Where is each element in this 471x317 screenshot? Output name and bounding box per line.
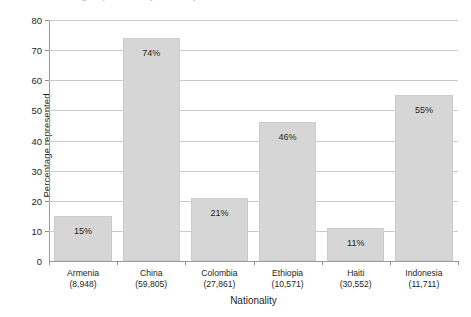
- category-name: Indonesia: [405, 268, 442, 278]
- category-name: Armenia: [67, 268, 99, 278]
- x-axis-tick-mark: [49, 261, 50, 265]
- bar: 74%: [123, 38, 180, 261]
- bar-value-label: 74%: [124, 48, 179, 58]
- x-axis-tick-mark: [117, 261, 118, 265]
- bar-value-label: 15%: [55, 226, 110, 236]
- bar-value-label: 11%: [328, 238, 383, 248]
- bar-value-label: 55%: [396, 105, 451, 115]
- y-axis-tick-label: 10: [12, 225, 42, 236]
- x-axis-tick-mark: [254, 261, 255, 265]
- bar: 15%: [54, 216, 111, 261]
- category-name: Colombia: [201, 268, 237, 278]
- bar: 11%: [327, 228, 384, 261]
- category-count: (59,805): [117, 279, 185, 290]
- bar: 55%: [395, 95, 452, 261]
- category-label: Indonesia(11,711): [390, 268, 458, 289]
- y-axis-tick-label: 30: [12, 165, 42, 176]
- category-count: (30,552): [322, 279, 390, 290]
- x-axis-tick-mark: [185, 261, 186, 265]
- category-count: (10,571): [254, 279, 322, 290]
- x-axis-tick-mark: [322, 261, 323, 265]
- category-label: Ethiopia(10,571): [254, 268, 322, 289]
- bar-chart-figure: Percentage represented 01020304050607080…: [0, 0, 471, 317]
- category-name: Ethiopia: [272, 268, 303, 278]
- y-axis-tick-label: 60: [12, 75, 42, 86]
- x-axis-tick-mark: [390, 261, 391, 265]
- bar: 21%: [191, 198, 248, 261]
- gridline: [49, 20, 458, 21]
- plot-area: 15%74%21%46%11%55%: [49, 20, 458, 261]
- bar-value-label: 46%: [260, 132, 315, 142]
- bar: 46%: [259, 122, 316, 261]
- gridline: [49, 50, 458, 51]
- y-axis-tick-label: 40: [12, 135, 42, 146]
- y-axis-tick-label: 0: [12, 256, 42, 267]
- x-axis-title: Nationality: [49, 295, 458, 306]
- category-name: Haiti: [347, 268, 364, 278]
- y-axis-tick-label: 80: [12, 15, 42, 26]
- category-count: (11,711): [390, 279, 458, 290]
- category-count: (27,861): [185, 279, 253, 290]
- gridline: [49, 80, 458, 81]
- category-label: Colombia(27,861): [185, 268, 253, 289]
- y-axis-tick-label: 20: [12, 195, 42, 206]
- y-axis-tick-label: 70: [12, 45, 42, 56]
- category-label: China(59,805): [117, 268, 185, 289]
- y-axis-tick-label: 50: [12, 105, 42, 116]
- category-count: (8,948): [49, 279, 117, 290]
- category-name: China: [140, 268, 162, 278]
- bar-value-label: 21%: [192, 208, 247, 218]
- category-label: Armenia(8,948): [49, 268, 117, 289]
- x-axis-tick-mark: [458, 261, 459, 265]
- category-label: Haiti(30,552): [322, 268, 390, 289]
